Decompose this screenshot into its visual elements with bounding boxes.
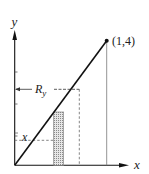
x-axis-arrow [119, 163, 129, 168]
radius-label: Ry [34, 82, 46, 98]
x-axis-label: x [133, 157, 140, 172]
y-axis-arrow [12, 30, 17, 40]
shaded-strip [54, 112, 64, 165]
endpoint-dot [105, 39, 109, 43]
endpoint-label: (1,4) [112, 34, 135, 48]
radius-arrowhead [15, 87, 20, 91]
height-label: x [21, 130, 28, 144]
diagram: y x Ry x (1,4) [0, 0, 149, 174]
y-axis-label: y [10, 14, 18, 29]
